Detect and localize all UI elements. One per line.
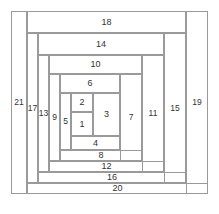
- quilt-piece-label: 11: [149, 109, 158, 118]
- quilt-piece-12: 12: [49, 161, 164, 172]
- quilt-piece-label: 5: [63, 117, 68, 126]
- quilt-piece-label: 8: [98, 151, 103, 160]
- quilt-piece-label: 20: [112, 184, 122, 193]
- quilt-piece-2: 2: [71, 93, 93, 112]
- quilt-piece-14: 14: [38, 33, 164, 55]
- quilt-piece-label: 16: [107, 173, 117, 182]
- quilt-piece-6: 6: [60, 74, 120, 93]
- quilt-piece-5: 5: [60, 93, 71, 150]
- quilt-piece-label: 19: [192, 98, 201, 107]
- quilt-piece-label: 6: [87, 79, 92, 88]
- quilt-piece-label: 12: [101, 162, 111, 171]
- quilt-piece-7: 7: [120, 74, 142, 161]
- quilt-piece-label: 2: [79, 98, 84, 107]
- quilt-piece-9: 9: [49, 74, 60, 161]
- quilt-piece-1: 1: [71, 112, 93, 136]
- quilt-piece-label: 1: [79, 120, 84, 129]
- quilt-piece-21: 21: [11, 11, 27, 194]
- quilt-piece-label: 4: [93, 139, 98, 148]
- quilt-piece-18: 18: [27, 11, 186, 33]
- quilt-piece-13: 13: [38, 55, 49, 172]
- quilt-piece-19: 19: [186, 11, 208, 194]
- quilt-piece-label: 15: [170, 104, 179, 113]
- quilt-piece-label: 10: [90, 60, 100, 69]
- quilt-piece-label: 3: [104, 110, 109, 119]
- quilt-piece-label: 21: [14, 98, 23, 107]
- quilt-piece-label: 9: [52, 113, 57, 122]
- quilt-piece-4: 4: [71, 136, 120, 150]
- quilt-piece-10: 10: [49, 55, 142, 74]
- quilt-piece-20: 20: [27, 183, 208, 194]
- quilt-piece-label: 7: [129, 113, 134, 122]
- quilt-piece-label: 17: [28, 104, 37, 113]
- quilt-piece-8: 8: [60, 150, 142, 161]
- quilt-piece-label: 18: [101, 18, 111, 27]
- quilt-piece-17: 17: [27, 33, 38, 183]
- quilt-piece-3: 3: [93, 93, 120, 136]
- quilt-piece-label: 13: [39, 109, 48, 118]
- quilt-piece-16: 16: [38, 172, 186, 183]
- quilt-piece-15: 15: [164, 33, 186, 183]
- log-cabin-quilt-block-diagram: 123456789101112131415161718192021: [0, 0, 219, 214]
- quilt-piece-label: 14: [96, 40, 106, 49]
- quilt-piece-11: 11: [142, 55, 164, 172]
